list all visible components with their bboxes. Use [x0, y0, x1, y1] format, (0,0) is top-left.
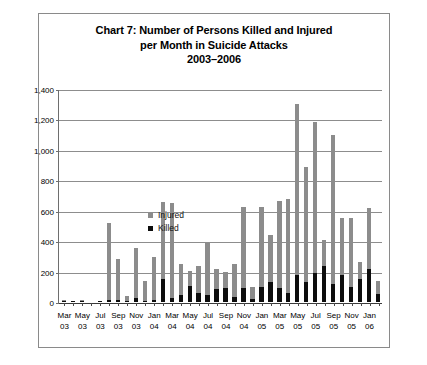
bar-slot [141, 89, 150, 302]
bar-slot [266, 89, 275, 302]
x-axis-label-month: Jul [95, 311, 105, 320]
bar-slot [275, 89, 284, 302]
bar-segment-killed [313, 273, 317, 302]
x-axis-label-year: 06 [357, 321, 383, 332]
bar-slot [374, 89, 383, 302]
bar-segment-killed [80, 301, 84, 302]
bar-slot [293, 89, 302, 302]
bar-slot [78, 89, 87, 302]
bar-slot [96, 89, 105, 302]
bar-segment-killed [62, 301, 66, 302]
y-tick-mark [56, 273, 59, 274]
bar-slot [87, 89, 96, 302]
bar-slot [186, 89, 195, 302]
bar-slot [168, 89, 177, 302]
bar-segment-killed [205, 295, 209, 302]
x-tick-mark [145, 303, 146, 306]
x-tick-mark [361, 303, 362, 306]
bar-segment-killed [188, 286, 192, 302]
bar-slot [347, 89, 356, 302]
bar-segment-killed [98, 301, 102, 302]
bar-segment-injured [143, 281, 147, 302]
bar-segment-injured [107, 223, 111, 302]
x-tick-mark [379, 303, 380, 306]
chart-figure: Chart 7: Number of Persons Killed and In… [38, 13, 390, 348]
bar-slot [177, 89, 186, 302]
x-tick-mark [208, 303, 209, 306]
chart-title: Chart 7: Number of Persons Killed and In… [39, 23, 389, 67]
bar-segment-killed [125, 301, 129, 302]
bar-segment-injured [295, 104, 299, 302]
x-tick-mark [109, 303, 110, 306]
x-tick-mark [154, 303, 155, 306]
x-tick-mark [100, 303, 101, 306]
x-tick-mark [244, 303, 245, 306]
legend-label-injured: Injured [158, 209, 184, 222]
x-tick-mark [91, 303, 92, 306]
x-tick-mark [298, 303, 299, 306]
x-tick-mark [118, 303, 119, 306]
y-tick-mark [56, 120, 59, 121]
bar-slot [248, 89, 257, 302]
bar-segment-killed [107, 300, 111, 302]
bar-slot [320, 89, 329, 302]
chart-title-line-3: 2003–2006 [39, 52, 389, 67]
bar-segment-killed [241, 288, 245, 302]
y-tick-mark [56, 303, 59, 304]
x-axis-label-month: Jul [311, 311, 321, 320]
plot-area-wrapper: 02004006008001,0001,2001,400 Injured Kil… [58, 90, 382, 304]
x-tick-mark [226, 303, 227, 306]
x-tick-mark [316, 303, 317, 306]
bar-segment-killed [304, 282, 308, 302]
x-axis-label-month: Jan [363, 311, 376, 320]
bar-segment-killed [232, 297, 236, 302]
x-tick-mark [199, 303, 200, 306]
bar-segment-killed [179, 295, 183, 302]
bar-slot [105, 89, 114, 302]
bar-segment-killed [143, 301, 147, 302]
x-tick-mark [127, 303, 128, 306]
bar-slot [123, 89, 132, 302]
legend-item-killed: Killed [148, 222, 184, 235]
legend-label-killed: Killed [158, 222, 179, 235]
bar-segment-killed [349, 287, 353, 302]
x-tick-mark [190, 303, 191, 306]
bar-segment-killed [116, 300, 120, 302]
bar-slot [338, 89, 347, 302]
y-tick-label: 0 [50, 299, 54, 308]
x-tick-mark [217, 303, 218, 306]
x-tick-mark [136, 303, 137, 306]
x-axis-label-month: Jul [203, 311, 213, 320]
x-tick-mark [343, 303, 344, 306]
chart-title-line-1: Chart 7: Number of Persons Killed and In… [39, 23, 389, 38]
chart-legend: Injured Killed [148, 209, 184, 235]
bar-segment-killed [250, 299, 254, 302]
y-tick-label: 800 [41, 177, 54, 186]
bar-slot [213, 89, 222, 302]
y-tick-mark [56, 242, 59, 243]
x-tick-mark [235, 303, 236, 306]
x-tick-mark [280, 303, 281, 306]
y-tick-label: 600 [41, 207, 54, 216]
bar-segment-injured [152, 257, 156, 302]
bar-segment-killed [367, 269, 371, 302]
bar-segment-killed [134, 298, 138, 302]
bar-slot [239, 89, 248, 302]
x-tick-mark [73, 303, 74, 306]
bar-slot [365, 89, 374, 302]
bar-segment-killed [223, 288, 227, 302]
bar-segment-injured [286, 199, 290, 302]
bar-slot [230, 89, 239, 302]
y-tick-label: 1,000 [34, 146, 54, 155]
y-tick-label: 1,400 [34, 86, 54, 95]
bar-slot [69, 89, 78, 302]
bar-slot [159, 89, 168, 302]
y-tick-label: 400 [41, 238, 54, 247]
bar-segment-killed [259, 287, 263, 302]
x-tick-mark [172, 303, 173, 306]
x-tick-mark [370, 303, 371, 306]
bars-group [60, 89, 382, 302]
x-tick-mark [325, 303, 326, 306]
bar-slot [195, 89, 204, 302]
y-tick-mark [56, 90, 59, 91]
